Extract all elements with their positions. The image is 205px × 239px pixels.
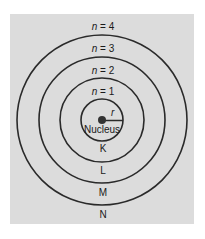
shell-label-m: M xyxy=(99,187,107,198)
orbit-label-n3: n = 3 xyxy=(92,43,115,54)
orbit-label-n1: n = 1 xyxy=(92,86,115,97)
shell-label-n: N xyxy=(99,209,106,220)
orbit-label-n4: n = 4 xyxy=(92,21,115,32)
bohr-model-diagram: r Nucleus n = 4 n = 3 n = 2 n = 1 K L M … xyxy=(0,0,205,239)
radius-label: r xyxy=(111,107,115,118)
shell-label-k: K xyxy=(100,143,107,154)
nucleus-dot xyxy=(98,116,106,124)
shell-label-l: L xyxy=(100,165,106,176)
orbit-label-n2: n = 2 xyxy=(92,65,115,76)
nucleus-label: Nucleus xyxy=(84,124,120,135)
